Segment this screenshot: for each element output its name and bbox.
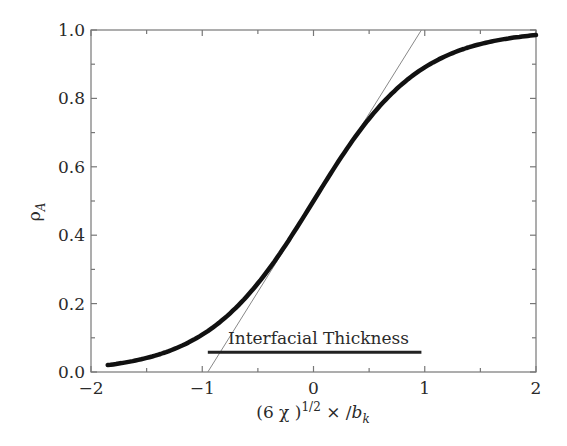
y-axis-label-subscript: A	[34, 202, 48, 212]
chart: −2−1012 0.00.20.40.60.81.0 Interfacial T…	[0, 0, 567, 446]
interfacial-thickness-label: Interfacial Thickness	[228, 328, 409, 348]
y-tick-label: 0.8	[58, 88, 85, 108]
y-tick-label: 1.0	[58, 20, 85, 40]
x-tick-label: 1	[419, 378, 430, 398]
x-axis-label-superscript: 1/2	[301, 400, 320, 414]
y-tick-labels: 0.00.20.40.60.81.0	[58, 20, 85, 382]
x-axis-label: (6 χ )1/2 × /bk	[256, 400, 369, 426]
x-axis-label-middle: × /	[321, 402, 352, 422]
y-axis-label: ρA	[24, 202, 48, 221]
y-tick-label: 0.6	[58, 157, 85, 177]
x-tick-labels: −2−1012	[78, 378, 541, 398]
x-axis-label-subscript: k	[362, 412, 369, 426]
y-tick-label: 0.2	[58, 294, 85, 314]
y-tick-label: 0.4	[58, 225, 85, 245]
density-profile-curve	[108, 35, 536, 365]
x-axis-label-prefix: (6 χ )	[256, 402, 301, 422]
x-tick-label: −1	[190, 378, 215, 398]
y-axis-label-symbol: ρ	[24, 211, 44, 221]
x-tick-label: 2	[531, 378, 542, 398]
y-tick-label: 0.0	[58, 362, 85, 382]
x-tick-label: 0	[308, 378, 319, 398]
x-axis-label-var: b	[352, 402, 363, 422]
